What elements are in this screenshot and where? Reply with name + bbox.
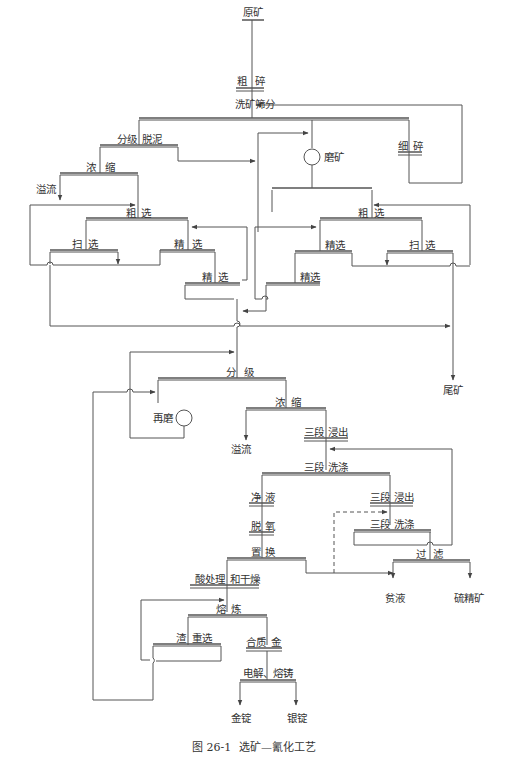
node-clean2-left-b: 选 <box>218 271 228 283</box>
node-gold: 金锭 <box>231 712 251 724</box>
node-clean-left-a: 精 <box>174 238 184 250</box>
node-wash3-a: 三段 <box>304 461 324 473</box>
node-rougher-left-a: 粗 <box>126 207 136 219</box>
node-sulfide-conc: 硫精矿 <box>454 592 484 604</box>
node-smelt-a: 熔 <box>216 603 226 615</box>
node-classify-b: 脱泥 <box>142 133 162 145</box>
node-coarse-crush-b: 碎 <box>255 75 265 87</box>
node-filter-a: 过 <box>416 548 426 560</box>
node-classify2-b: 级 <box>244 366 254 378</box>
node-purify-b: 液 <box>265 491 275 503</box>
node-smelt-b: 炼 <box>231 603 241 615</box>
node-grinding: 磨矿 <box>324 151 344 163</box>
node-deoxy-b: 氧 <box>265 520 275 532</box>
flowsheet-diagram <box>0 0 511 768</box>
node-slag-b: 重选 <box>192 632 212 644</box>
node-clean-left-b: 选 <box>192 238 202 250</box>
figure-caption-title: 选矿—氰化工艺 <box>239 738 316 754</box>
node-alloy-b: 金 <box>271 636 281 648</box>
node-replace-b: 换 <box>265 546 275 558</box>
node-scav-left-a: 扫 <box>72 238 82 250</box>
node-rougher-right-b: 选 <box>374 207 384 219</box>
node-alloy-a: 合质 <box>246 636 266 648</box>
node-deoxy-a: 脱 <box>251 520 261 532</box>
figure-caption-number: 图 26-1 <box>192 738 231 754</box>
node-scav-left-b: 选 <box>88 238 98 250</box>
node-classify-a: 分级 <box>117 133 137 145</box>
node-thicken2-b: 缩 <box>291 396 301 408</box>
node-acid-b: 和干燥 <box>230 573 260 585</box>
node-thicken1-a: 浓 <box>86 161 96 173</box>
node-scav-right-b: 选 <box>425 239 435 251</box>
node-acid-a: 酸处理 <box>195 573 225 585</box>
node-clean2-right: 精选 <box>300 271 320 283</box>
node-rougher-left-b: 选 <box>141 207 151 219</box>
node-raw-ore: 原矿 <box>243 6 263 18</box>
node-leach3-a: 三段 <box>304 426 324 438</box>
node-overflow2: 溢流 <box>231 443 251 455</box>
node-leach3b-a: 三段 <box>370 491 390 503</box>
node-replace-a: 置 <box>251 546 261 558</box>
node-classify2-a: 分 <box>226 366 236 378</box>
node-thicken1-b: 缩 <box>105 161 115 173</box>
node-overflow1: 溢流 <box>36 183 56 195</box>
node-clean-right: 精选 <box>325 239 345 251</box>
node-purify-a: 净 <box>251 491 261 503</box>
node-rougher-right-a: 粗 <box>358 207 368 219</box>
node-wash3-b: 洗涤 <box>328 461 348 473</box>
node-silver: 银锭 <box>287 712 307 724</box>
node-thicken2-a: 浓 <box>275 396 285 408</box>
node-regrind: 再磨 <box>153 412 173 424</box>
node-clean2-left-a: 精 <box>202 271 212 283</box>
node-slag-a: 渣 <box>176 632 186 644</box>
node-barren: 贫液 <box>385 592 405 604</box>
node-scav-right-a: 扫 <box>409 239 419 251</box>
node-leach3-b: 浸出 <box>328 426 348 438</box>
node-wash3b-a: 三段 <box>370 518 390 530</box>
node-tailings: 尾矿 <box>443 384 463 396</box>
node-leach3b-b: 浸出 <box>394 491 414 503</box>
node-filter-b: 滤 <box>433 548 443 560</box>
node-fine-crush-b: 碎 <box>413 140 423 152</box>
node-coarse-crush-a: 粗 <box>237 75 247 87</box>
node-electro: 电解、熔铸 <box>243 667 293 679</box>
node-fine-crush-a: 细 <box>398 140 408 152</box>
node-wash3b-b: 洗涤 <box>394 518 414 530</box>
node-wash-screen: 洗矿筛分 <box>235 98 275 110</box>
